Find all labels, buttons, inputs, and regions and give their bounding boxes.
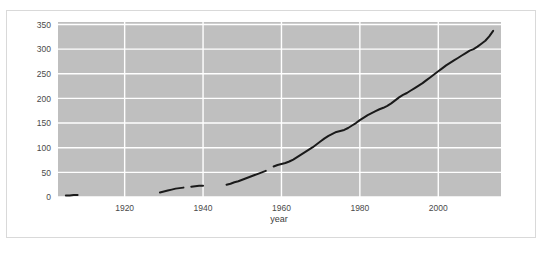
x-tick-label: 1940 [194,203,213,213]
y-tick-label: 150 [37,118,51,128]
y-tick-label: 100 [37,143,51,153]
x-tick-label: 1980 [350,203,369,213]
x-axis-tick-labels: 19201940196019802000 [115,203,448,213]
x-tick-label: 1920 [115,203,134,213]
y-axis-tick-labels: 050100150200250300350 [37,20,51,203]
y-tick-label: 300 [37,44,51,54]
x-tick-label: 2000 [429,203,448,213]
line-chart: 050100150200250300350 192019401960198020… [7,11,535,237]
x-axis-title: year [270,214,288,224]
y-tick-label: 350 [37,20,51,30]
chart-figure-panel: 050100150200250300350 192019401960198020… [6,10,536,238]
x-tick-label: 1960 [272,203,291,213]
y-tick-label: 200 [37,94,51,104]
y-tick-label: 0 [46,192,51,202]
series-segment [191,186,203,187]
y-tick-label: 250 [37,69,51,79]
y-tick-label: 50 [42,168,52,178]
